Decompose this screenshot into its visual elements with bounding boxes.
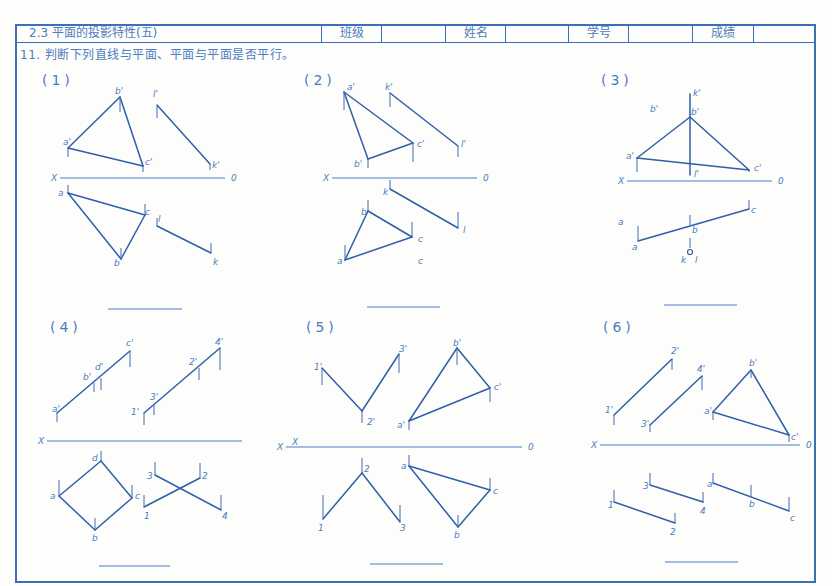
projection-edge: [68, 148, 143, 166]
point-label: X: [291, 437, 299, 447]
point-label: 4': [215, 337, 223, 347]
axis-label-x: X: [276, 442, 284, 452]
projection-edge: [409, 466, 458, 527]
point-label: c': [494, 382, 501, 392]
projection-edge: [157, 105, 210, 164]
projection-edge: [345, 237, 412, 260]
point-label: 2': [189, 357, 197, 367]
point-label: a: [632, 242, 638, 252]
projection-edge: [95, 498, 132, 530]
point-label: 4: [700, 506, 706, 516]
projection-edge: [144, 478, 200, 507]
point-label: k': [212, 160, 220, 170]
projection-edge: [323, 473, 362, 519]
point-label: c: [145, 207, 150, 217]
point-label: b': [749, 358, 757, 368]
point-label: a: [50, 491, 56, 501]
point-label: c': [791, 432, 798, 442]
point-label: c: [751, 205, 756, 215]
point-label: 3': [399, 344, 407, 354]
projection-edge: [637, 117, 690, 158]
point-label: 4: [222, 511, 228, 521]
point-label: b': [354, 159, 362, 169]
projection-edge: [121, 215, 145, 259]
problem-6-drawing: X02'4'b'1'3'a'c'3a14bc2: [590, 346, 812, 562]
point-label: c': [126, 338, 133, 348]
point-label: 3: [643, 481, 649, 491]
projection-edge: [457, 348, 490, 388]
axis-label-x: X: [590, 440, 598, 450]
point-label: l: [695, 255, 698, 265]
point-label: b': [650, 104, 658, 114]
projection-edge: [409, 466, 490, 490]
point-label: 3: [400, 523, 406, 533]
point-label: l': [461, 139, 466, 149]
projection-edge: [155, 475, 221, 510]
point-label: b': [83, 372, 91, 382]
point-label: c': [145, 157, 152, 167]
axis-label-x: X: [322, 173, 330, 183]
projection-edge: [409, 388, 490, 421]
projection-edge: [344, 92, 413, 143]
axis-label-origin: 0: [778, 176, 784, 186]
point-label: 1: [318, 523, 324, 533]
point-label: a': [63, 137, 71, 147]
point-label: a: [618, 217, 624, 227]
point-label: b: [454, 530, 460, 540]
point-label: 2: [670, 527, 676, 537]
point-label: b': [453, 338, 461, 348]
axis-label-origin: 0: [483, 173, 489, 183]
point-label: 1: [144, 511, 150, 521]
point-label: 1': [314, 362, 322, 372]
projection-edge: [120, 97, 143, 166]
problem-2-drawing: X0a'k'c'l'b'kblcac: [322, 82, 489, 307]
projection-edge: [59, 496, 95, 530]
axis-label-origin: 0: [528, 442, 534, 452]
axis-label-x: X: [50, 173, 58, 183]
point-label: c: [493, 486, 498, 496]
point-label: b: [92, 533, 98, 543]
point-label: 2': [671, 346, 679, 356]
point-label: 1': [605, 405, 613, 415]
problem-3-drawing: X0k'b'b'a'l'c'cabakl: [617, 88, 784, 305]
point-label: a: [337, 256, 343, 266]
point-label: b: [361, 207, 367, 217]
projection-edge: [344, 92, 368, 159]
projection-edge: [157, 226, 211, 253]
axis-label-x: X: [617, 176, 625, 186]
point-label: l: [463, 225, 466, 235]
problem-5-drawing: X01'3'2'b'c'a'X2ac13b: [276, 338, 534, 564]
point-label: a: [707, 479, 713, 489]
problem-1-drawing: X0b'a'c'l'k'aclbk: [50, 86, 237, 309]
point-label: 2': [367, 417, 375, 427]
axis-label-x: X: [37, 436, 45, 446]
problem-4-drawing: Xc'd'b'a'4'2'3'1'dacb3214: [37, 337, 242, 566]
projection-edge: [458, 490, 490, 527]
point-label: l': [694, 169, 699, 179]
point-label: b': [115, 86, 123, 96]
point-label: a': [347, 82, 355, 92]
projection-edge: [68, 193, 145, 215]
point-marker-icon: [688, 250, 693, 255]
point-label: k': [693, 88, 701, 98]
projection-edge: [68, 193, 121, 259]
projection-edge: [650, 376, 702, 425]
point-label: b: [114, 258, 120, 268]
axis-label-origin: 0: [231, 173, 237, 183]
point-label: 1': [131, 407, 139, 417]
projection-edge: [368, 211, 412, 237]
point-label: a: [58, 188, 64, 198]
projection-edge: [614, 359, 672, 415]
point-label: 4': [697, 364, 705, 374]
point-label: k: [681, 255, 687, 265]
projection-edge: [650, 485, 703, 502]
point-label: a': [52, 404, 60, 414]
point-label: d: [92, 453, 98, 463]
projection-edge: [322, 368, 362, 411]
point-label: b: [692, 225, 698, 235]
projection-edge: [368, 143, 413, 159]
point-label: a': [397, 420, 405, 430]
projection-edge: [59, 461, 101, 496]
point-label: c: [135, 491, 140, 501]
point-label: c': [417, 139, 424, 149]
